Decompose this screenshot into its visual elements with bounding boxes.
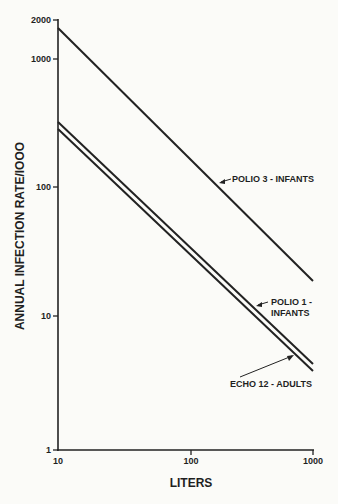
svg-text:INFANTS: INFANTS [271,308,310,318]
x-ticks: 10 100 1000 [53,450,323,466]
series-echo12-adults [58,129,313,371]
y-axis-label: ANNUAL INFECTION RATE/IOOO [13,142,27,330]
annotation-polio1: POLIO 1 - INFANTS [256,297,312,318]
arrow-icon [287,355,294,361]
y-tick-1: 1 [46,445,51,455]
svg-text:POLIO 3 - INFANTS: POLIO 3 - INFANTS [232,174,314,184]
y-tick-2000: 2000 [31,15,51,25]
y-tick-1000: 1000 [31,54,51,64]
arrow-icon [256,302,262,307]
y-tick-100: 100 [36,182,51,192]
arrow-icon [219,179,225,184]
svg-text:ECHO 12 - ADULTS: ECHO 12 - ADULTS [230,379,312,389]
y-tick-10: 10 [41,311,51,321]
annotation-polio3: POLIO 3 - INFANTS [219,174,314,184]
y-ticks: 2000 1000 100 10 1 [31,15,58,455]
svg-text:POLIO 1 -: POLIO 1 - [271,297,312,307]
annotation-echo12: ECHO 12 - ADULTS [230,355,312,389]
x-tick-100: 100 [183,456,198,466]
x-tick-1000: 1000 [303,456,323,466]
chart: 2000 1000 100 10 1 10 100 1000 LITERS AN… [0,0,338,504]
x-tick-10: 10 [53,456,63,466]
x-axis-label: LITERS [170,476,213,490]
